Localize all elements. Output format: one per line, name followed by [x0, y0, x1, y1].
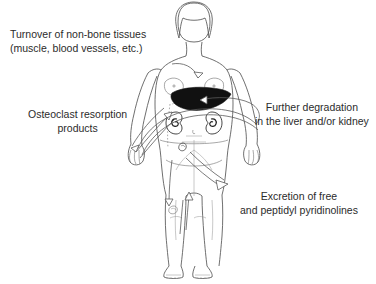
knee-node	[169, 206, 178, 214]
head-group	[176, 2, 213, 56]
pelvic-node	[179, 143, 187, 151]
label-excretion-free-peptidyl-pyridinolines: Excretion of free and peptidyl pyridinol…	[240, 190, 358, 217]
label-osteoclast-resorption-products: Osteoclast resorption products	[28, 108, 127, 135]
arrow-pelvis-to-excretion	[186, 152, 228, 190]
label-further-degradation-liver-kidney: Further degradation in the liver and/or …	[255, 101, 369, 128]
diagram-canvas: Turnover of non-bone tissues (muscle, bl…	[0, 0, 376, 284]
arrow-chest-to-liver	[172, 64, 203, 78]
label-turnover-non-bone-tissues: Turnover of non-bone tissues (muscle, bl…	[10, 28, 146, 55]
liver-organ	[171, 87, 231, 110]
arrow-leg-upward	[180, 192, 193, 234]
arrow-thigh-left	[165, 160, 173, 206]
